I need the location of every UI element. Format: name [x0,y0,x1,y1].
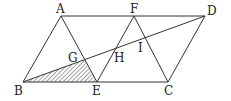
label-G: G [68,51,78,65]
segment-FE [97,16,134,82]
label-C: C [164,84,173,98]
label-A: A [55,2,65,16]
geometry-diagram: A F D B E C G H I [0,0,231,101]
segment-BD [23,16,205,82]
label-D: D [207,4,217,18]
label-I: I [138,41,143,55]
label-F: F [130,2,138,16]
segment-DC [168,16,205,82]
label-H: H [114,51,124,65]
label-E: E [92,84,101,98]
label-B: B [14,84,23,98]
